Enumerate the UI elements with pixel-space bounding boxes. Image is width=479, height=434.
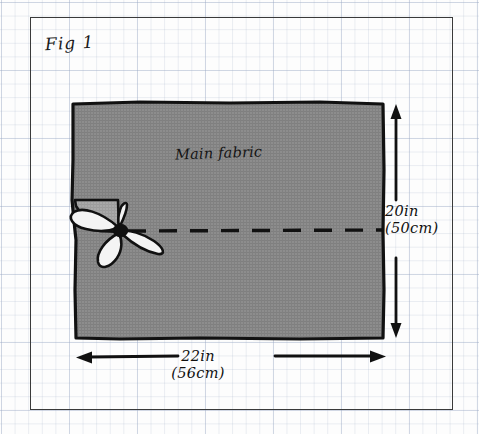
dimension-horizontal-metric: (56cm) xyxy=(171,365,224,382)
dimension-arrow-horizontal xyxy=(76,351,386,364)
figure-page: Fig 1 xyxy=(0,0,479,434)
fabric-label: Main fabric xyxy=(175,143,263,162)
dimension-vertical-imperial: 20in xyxy=(385,203,419,219)
dimension-label-vertical: 20in (50cm) xyxy=(385,203,438,237)
dimension-horizontal-imperial: 22in xyxy=(181,348,215,364)
dimension-vertical-metric: (50cm) xyxy=(385,220,438,237)
dimension-label-horizontal: 22in (56cm) xyxy=(171,348,224,382)
